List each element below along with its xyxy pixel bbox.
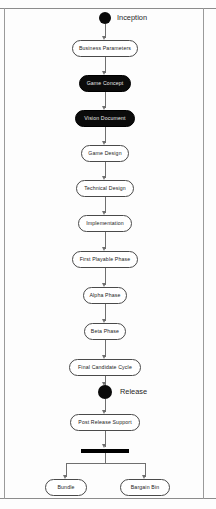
activity-game-design[interactable]: Game Design: [81, 145, 129, 162]
fork-distribution-rail: [66, 463, 145, 464]
activity-bargain-bin[interactable]: Bargain Bin: [120, 479, 170, 496]
activity-vision-document[interactable]: Vision Document: [75, 110, 135, 127]
page-frame-bottom-border: [0, 498, 216, 499]
activity-first-playable-phase[interactable]: First Playable Phase: [72, 251, 138, 268]
initial-node-label: Inception: [117, 14, 147, 21]
activity-beta-phase[interactable]: Beta Phase: [84, 323, 126, 340]
activity-post-release-support[interactable]: Post Release Support: [70, 414, 140, 431]
activity-alpha-phase[interactable]: Alpha Phase: [83, 287, 127, 304]
activity-bundle[interactable]: Bundle: [45, 479, 87, 496]
activity-implementation[interactable]: Implementation: [78, 215, 132, 232]
activity-diagram-canvas: Inception Business Parameters Game Conce…: [0, 0, 216, 509]
fork-stem: [105, 453, 106, 463]
page-frame-left-border: [4, 8, 5, 499]
activity-game-concept[interactable]: Game Concept: [79, 75, 131, 92]
release-milestone-label: Release: [120, 388, 147, 395]
page-frame-top-border: [0, 8, 216, 9]
initial-node-bullet: [99, 12, 111, 24]
page-frame-right-border: [203, 8, 204, 499]
activity-final-candidate-cycle[interactable]: Final Candidate Cycle: [69, 359, 141, 376]
release-milestone-bullet: [98, 385, 112, 399]
activity-technical-design[interactable]: Technical Design: [76, 180, 134, 197]
activity-business-parameters[interactable]: Business Parameters: [72, 40, 138, 57]
arrowhead-fork-bar: [102, 444, 106, 448]
